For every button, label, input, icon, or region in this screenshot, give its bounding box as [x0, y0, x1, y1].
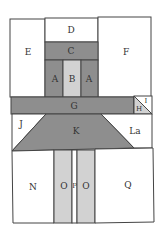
piece-P: P: [72, 150, 77, 223]
piece-O-left: O: [54, 150, 72, 223]
piece-H-I: I H: [134, 96, 152, 114]
label-I: I: [145, 97, 148, 105]
label-G: G: [70, 101, 77, 111]
label-E: E: [25, 47, 32, 57]
label-P: P: [72, 182, 77, 190]
piece-G: G: [11, 97, 134, 114]
label-F: F: [123, 47, 129, 57]
label-B: B: [69, 74, 76, 84]
piece-F: F: [98, 17, 151, 97]
label-D: D: [67, 25, 74, 35]
label-A-right: A: [85, 74, 93, 84]
label-A-left: A: [51, 74, 59, 84]
piece-B: B: [63, 60, 81, 97]
piece-A-left: A: [45, 60, 63, 97]
piece-N: N: [12, 150, 54, 223]
piece-A-right: A: [81, 60, 98, 97]
label-O-right: O: [82, 181, 89, 191]
piece-O-right: O: [77, 150, 95, 223]
label-H: H: [136, 105, 142, 113]
piece-C: C: [45, 42, 98, 60]
label-O-left: O: [60, 181, 67, 191]
quilt-block-diagram: E D F C A B A G I H J: [0, 0, 162, 234]
piece-D: D: [45, 18, 98, 42]
label-J: J: [18, 119, 23, 129]
piece-E: E: [10, 19, 45, 97]
label-La: La: [129, 126, 141, 136]
label-N: N: [29, 182, 37, 192]
label-C: C: [68, 46, 75, 56]
piece-Q: Q: [95, 148, 154, 223]
label-Q: Q: [124, 180, 131, 190]
label-K: K: [73, 126, 80, 136]
